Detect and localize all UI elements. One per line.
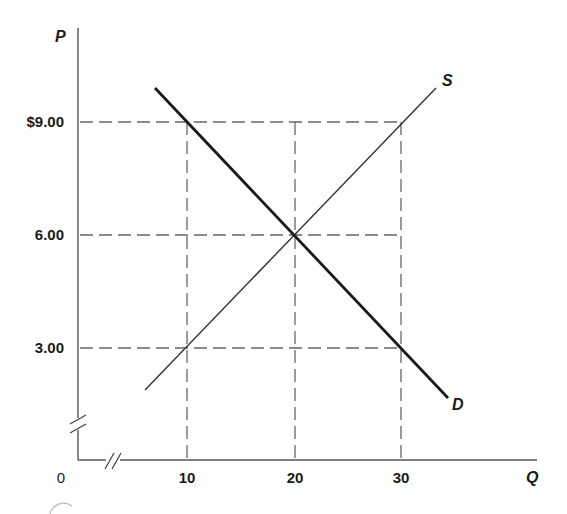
vertical-reference-lines: [187, 122, 401, 459]
x-axis-title: Q: [526, 469, 539, 486]
supply-curve: [145, 88, 436, 390]
y-axis-title: P: [55, 28, 66, 45]
x-axis-break-icon: [105, 453, 121, 469]
y-tick-label-9: $9.00: [26, 113, 64, 130]
x-tick-label-20: 20: [287, 469, 304, 486]
demand-curve: [155, 88, 448, 398]
y-tick-label-6: 6.00: [35, 226, 64, 243]
horizontal-reference-lines: [80, 122, 401, 348]
supply-label: S: [442, 72, 453, 89]
x-tick-label-30: 30: [393, 469, 410, 486]
origin-label: 0: [57, 469, 65, 486]
demand-label: D: [452, 396, 464, 413]
partial-circle-mark: [50, 503, 72, 514]
x-tick-label-10: 10: [179, 469, 196, 486]
y-tick-label-3: 3.00: [35, 339, 64, 356]
supply-demand-chart: P Q $9.00 6.00 3.00 0 10 20 30 S D: [0, 0, 567, 514]
